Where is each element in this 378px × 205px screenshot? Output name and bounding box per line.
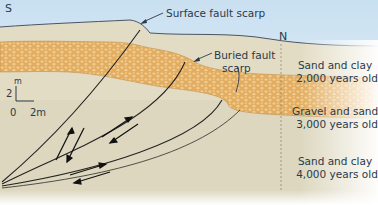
direction-south: S <box>5 3 12 15</box>
buried-fault-scarp-label-1: Buried fault <box>214 49 275 61</box>
layer-label-1-age: 2,000 years old <box>294 72 378 84</box>
layer-label-3-name: Sand and clay <box>292 155 378 167</box>
layer-label-3-age: 4,000 years old <box>294 168 378 180</box>
scale-origin: 0 <box>10 107 16 119</box>
surface-fault-scarp-label: Surface fault scarp <box>166 7 265 19</box>
layer-label-2-name: Gravel and sand <box>292 105 378 117</box>
fault-scarp-diagram: S N Surface fault scarp Buried fault sca… <box>0 0 378 205</box>
direction-north: N <box>279 31 287 43</box>
buried-fault-scarp-label-2: scarp <box>222 62 251 74</box>
layer-label-2-age: 3,000 years old <box>294 118 378 130</box>
layer-label-1-name: Sand and clay <box>292 59 378 71</box>
scale-vertical-value: 2 <box>6 88 12 100</box>
scale-unit-label: m <box>14 76 22 88</box>
scale-horizontal-value: 2m <box>30 107 46 119</box>
